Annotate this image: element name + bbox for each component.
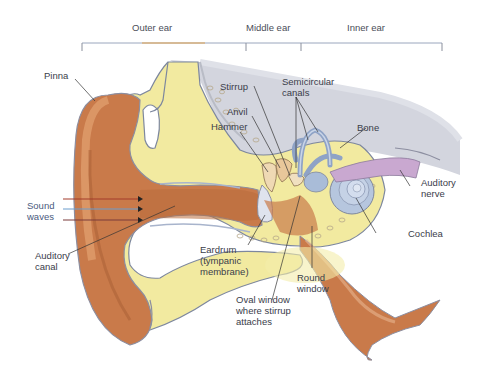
section-label-middle-ear: Middle ear xyxy=(246,22,290,33)
label-oval-window: Oval window where stirrup attaches xyxy=(236,294,291,327)
label-bone: Bone xyxy=(357,122,379,133)
section-label-outer-ear: Outer ear xyxy=(132,22,172,33)
label-hammer: Hammer xyxy=(211,121,247,132)
label-sound-waves: Sound waves xyxy=(27,200,54,222)
label-cochlea: Cochlea xyxy=(408,228,443,239)
label-round-window: Round window xyxy=(297,272,329,294)
section-bracket xyxy=(82,43,442,51)
label-auditory-canal: Auditory canal xyxy=(35,250,70,272)
label-stirrup: Stirrup xyxy=(220,81,248,92)
label-anvil: Anvil xyxy=(227,106,248,117)
label-eardrum: Eardrum (tympanic membrane) xyxy=(200,244,249,277)
label-auditory-nerve: Auditory nerve xyxy=(421,177,456,199)
label-pinna: Pinna xyxy=(44,70,68,81)
section-label-inner-ear: Inner ear xyxy=(347,22,385,33)
auditory-canal xyxy=(140,189,265,221)
vestibule xyxy=(304,172,328,192)
label-semicircular-canals: Semicircular canals xyxy=(282,76,334,98)
ear-anatomy-diagram: Outer ear Middle ear Inner ear Pinna Sou… xyxy=(0,0,483,372)
